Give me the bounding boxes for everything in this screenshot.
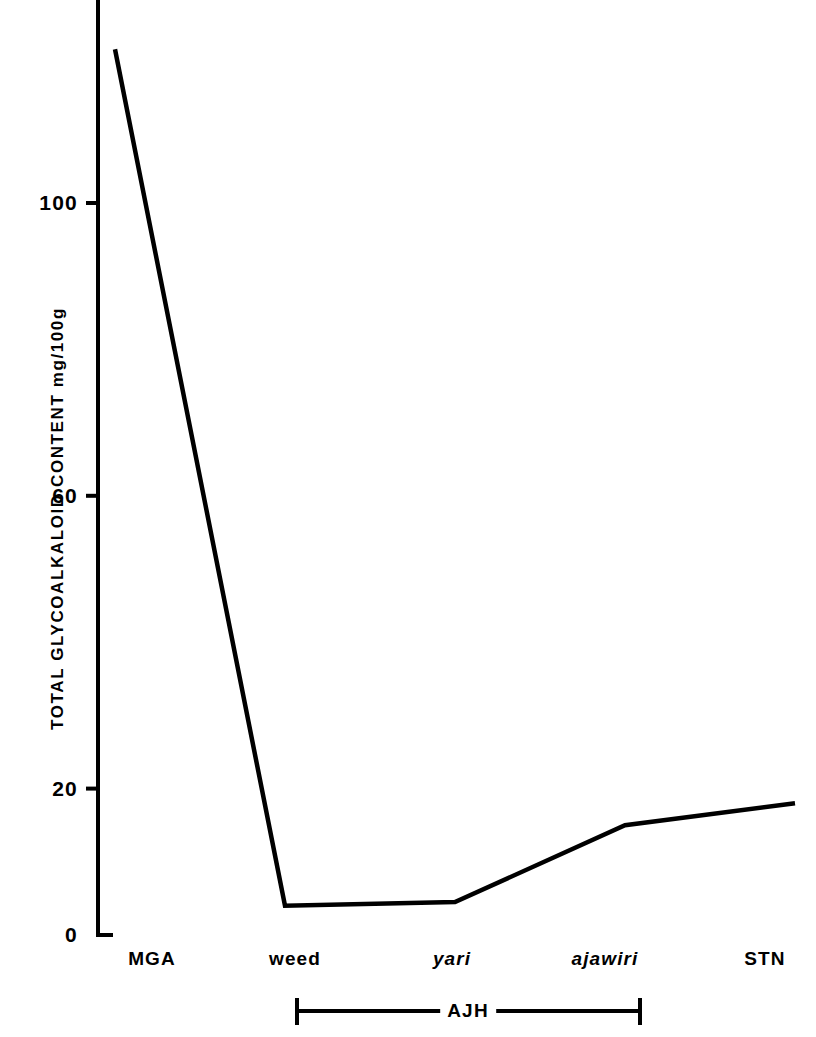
y-axis-label-0: 0 — [0, 923, 78, 947]
x-axis-label-mga: MGA — [128, 948, 176, 970]
y-axis-label-20: 20 — [0, 777, 78, 801]
y-axis-title: TOTAL GLYCOALKALOID CONTENT mg/100g — [38, 0, 78, 1037]
x-axis-label-weed: weed — [269, 948, 321, 970]
x-axis-label-stn: STN — [744, 948, 785, 970]
group-bracket-label: AJH — [440, 1000, 496, 1022]
chart-figure: TOTAL GLYCOALKALOID CONTENT mg/100g 1006… — [0, 0, 816, 1037]
data-series-line — [115, 49, 795, 905]
x-axis-label-yari: yari — [433, 948, 471, 970]
x-axis-label-ajawiri: ajawiri — [572, 948, 639, 970]
y-axis-line — [98, 0, 113, 935]
chart-plot-area — [0, 0, 816, 1037]
y-axis-label-100: 100 — [0, 191, 78, 215]
y-axis-label-60: 60 — [0, 484, 78, 508]
